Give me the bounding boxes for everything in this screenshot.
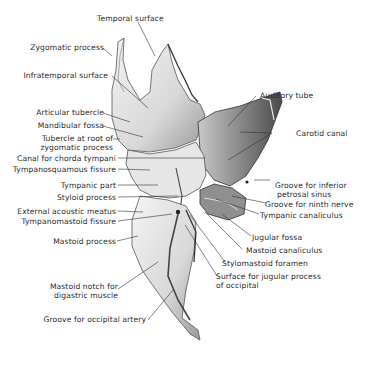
label-groove-inferior-petrosal: Groove for inferior petrosal sinus <box>275 181 347 199</box>
label-mastoid-process: Mastoid process <box>53 237 116 246</box>
anatomy-figure: Temporal surface Zygomatic process Infra… <box>0 0 366 366</box>
label-tympanic-part: Tympanic part <box>61 181 116 190</box>
label-articular-tubercle: Articular tubercle <box>36 108 104 117</box>
label-mandibular-fossa: Mandibular fossa <box>38 121 104 130</box>
label-tympanic-canaliculus: Tympanic canaliculus <box>260 211 343 220</box>
label-tympanosquamous-fissure: Tympanosquamous fissure <box>13 165 116 174</box>
label-zygomatic-process: Zygomatic process <box>30 43 104 52</box>
label-auditory-tube: Auditory tube <box>260 91 313 100</box>
label-styloid-process: Styloid process <box>57 193 116 202</box>
label-canal-chorda-tympani: Canal for chorda tympani <box>17 154 116 163</box>
label-tubercle-root-zygomatic: Tubercle at root of zygomatic process <box>40 134 113 152</box>
label-tympanomastoid-fissure: Tympanomastoid fissure <box>21 217 116 226</box>
label-mastoid-notch: Mastoid notch for digastric muscle <box>50 282 118 300</box>
label-groove-ninth-nerve: Groove for ninth nerve <box>265 200 353 209</box>
label-carotid-canal: Carotid canal <box>296 129 348 138</box>
label-temporal-surface: Temporal surface <box>97 14 164 23</box>
label-jugular-fossa: Jugular fossa <box>252 233 302 242</box>
petrous-part <box>198 92 282 186</box>
label-stylomastoid-foramen: Stylomastoid foramen <box>222 259 308 268</box>
label-external-acoustic-meatus: External acoustic meatus <box>17 207 116 216</box>
label-groove-occipital-artery: Groove for occipital artery <box>44 315 147 324</box>
label-infratemporal-surface: Infratemporal surface <box>24 71 108 80</box>
squamous-part <box>112 38 205 152</box>
label-surface-jugular-process: Surface for jugular process of occipital <box>216 272 321 290</box>
label-mastoid-canaliculus: Mastoid canaliculus <box>246 246 322 255</box>
